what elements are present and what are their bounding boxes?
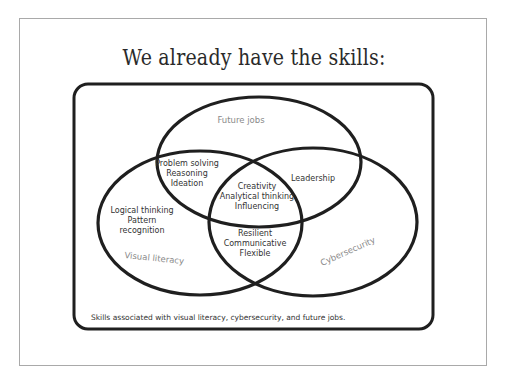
region-visual-cyber: Resilient Communicative Flexible bbox=[224, 229, 287, 258]
skill-ideation: Ideation bbox=[171, 179, 204, 188]
skill-pattern: Pattern bbox=[128, 216, 157, 225]
skill-communicative: Communicative bbox=[224, 239, 287, 248]
skill-problem-solving: Problem solving bbox=[155, 159, 219, 168]
region-future-visual: Problem solving Reasoning Ideation bbox=[155, 159, 219, 188]
set-label-visual-literacy: Visual literacy bbox=[124, 250, 184, 266]
skill-recognition: recognition bbox=[119, 226, 164, 235]
skill-reasoning: Reasoning bbox=[166, 169, 208, 178]
region-future-cyber: Leadership bbox=[291, 174, 335, 183]
region-visual-only: Logical thinking Pattern recognition bbox=[110, 206, 173, 235]
set-label-cybersecurity: Cybersecurity bbox=[319, 235, 377, 268]
skill-leadership: Leadership bbox=[291, 174, 335, 183]
skill-creativity: Creativity bbox=[238, 182, 277, 191]
region-all-three: Creativity Analytical thinking Influenci… bbox=[220, 182, 294, 211]
skill-analytical-thinking: Analytical thinking bbox=[220, 192, 294, 201]
diagram-caption: Skills associated with visual literacy, … bbox=[91, 313, 345, 322]
skill-logical-thinking: Logical thinking bbox=[110, 206, 173, 215]
skill-resilient: Resilient bbox=[238, 229, 272, 238]
set-label-future-jobs: Future jobs bbox=[217, 115, 265, 125]
ellipse-cybersecurity bbox=[209, 148, 417, 296]
skill-flexible: Flexible bbox=[240, 249, 271, 258]
skill-influencing: Influencing bbox=[235, 202, 279, 211]
venn-diagram: Future jobs Visual literacy Cybersecurit… bbox=[0, 0, 508, 387]
